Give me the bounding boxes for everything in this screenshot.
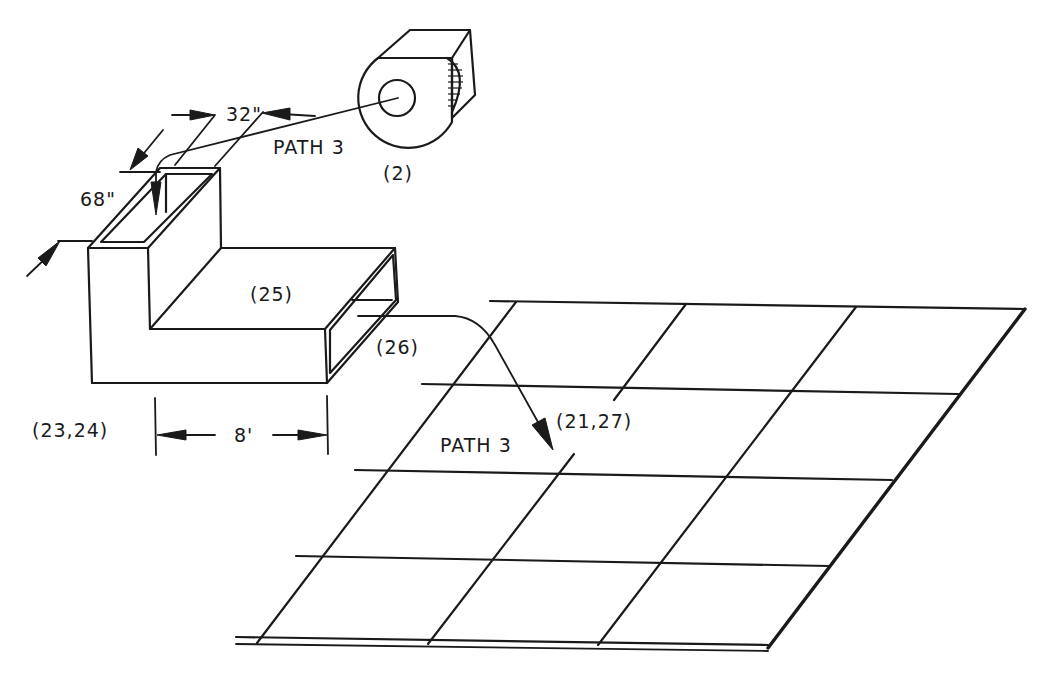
path3-lower-line <box>358 316 548 440</box>
label-riser-height: 68" <box>80 188 116 210</box>
label-horizontal-duct: (25) <box>250 283 293 305</box>
blower-unit <box>358 30 475 148</box>
ceiling-grid <box>236 301 1025 651</box>
label-ceiling-target: (21,27) <box>556 410 632 432</box>
label-path3-lower: PATH 3 <box>440 434 512 456</box>
label-duct-outlet: (26) <box>376 336 419 358</box>
label-path3-upper: PATH 3 <box>273 136 345 158</box>
label-duct-length: 8' <box>234 424 253 446</box>
horizontal-duct <box>92 248 398 383</box>
duct-diagram: (2) PATH 3 32" 68" <box>0 0 1046 674</box>
label-riser-width: 32" <box>226 103 262 125</box>
label-duct-assembly: (23,24) <box>32 419 108 441</box>
label-blower: (2) <box>383 162 413 184</box>
path3-arrow-head <box>532 418 553 450</box>
